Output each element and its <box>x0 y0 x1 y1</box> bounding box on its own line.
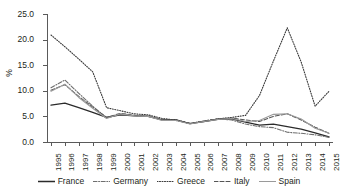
x-axis-tick-label: 2013 <box>305 153 313 171</box>
x-axis-tick-label: 1998 <box>96 153 104 171</box>
x-axis-tick-label: 2003 <box>166 153 174 171</box>
x-axis-tick-label: 2009 <box>249 153 257 171</box>
solid-light-line-swatch <box>259 178 276 185</box>
x-axis-tick-mark <box>329 142 330 146</box>
x-axis-tick-mark <box>204 142 205 146</box>
x-axis-tick-label: 2010 <box>263 153 271 171</box>
legend-item-germany[interactable]: Germany <box>93 177 148 186</box>
y-axis-tick-mark <box>43 65 47 66</box>
legend-label: Germany <box>113 177 148 186</box>
x-axis-tick-mark <box>301 142 302 146</box>
x-axis-tick-mark <box>260 142 261 146</box>
legend-label: Greece <box>177 177 205 186</box>
x-axis-tick-mark <box>162 142 163 146</box>
x-axis-tick-label: 2002 <box>152 153 160 171</box>
x-axis-tick-mark <box>79 142 80 146</box>
series-line-spain <box>51 84 329 133</box>
solid-line-swatch <box>38 178 55 185</box>
legend-item-italy[interactable]: Italy <box>214 177 250 186</box>
x-axis-tick-mark <box>218 142 219 146</box>
legend-label: France <box>58 177 84 186</box>
legend-label: Spain <box>279 177 301 186</box>
x-axis-tick-mark <box>246 142 247 146</box>
x-axis-tick-label: 1995 <box>55 153 63 171</box>
x-axis-tick-label: 1999 <box>110 153 118 171</box>
y-axis-tick-mark <box>43 40 47 41</box>
x-axis-tick-label: 2012 <box>291 153 299 171</box>
dashed-line-swatch <box>214 178 231 185</box>
dotted-line-swatch <box>157 178 174 185</box>
x-axis-tick-mark <box>93 142 94 146</box>
x-axis-tick-label: 2004 <box>180 153 188 171</box>
y-axis-tick-mark <box>43 14 47 15</box>
dash-dot-line-swatch <box>93 178 110 185</box>
x-axis-tick-mark <box>273 142 274 146</box>
series-lines <box>47 14 333 142</box>
legend-item-greece[interactable]: Greece <box>157 177 205 186</box>
x-axis-tick-label: 2014 <box>319 153 327 171</box>
x-axis-tick-label: 2015 <box>333 153 341 171</box>
y-axis-tick-label: 5.0 <box>22 112 34 121</box>
x-axis-tick-mark <box>148 142 149 146</box>
x-axis-tick-marks <box>0 142 338 146</box>
x-axis-tick-mark <box>51 142 52 146</box>
x-axis-tick-mark <box>315 142 316 146</box>
x-axis-tick-mark <box>232 142 233 146</box>
y-axis-tick-label: 20.0 <box>17 35 34 44</box>
plot-area <box>47 14 333 142</box>
chart-legend: FranceGermanyGreeceItalySpain <box>0 174 338 188</box>
y-axis-tick-mark <box>43 91 47 92</box>
x-axis-tick-mark <box>121 142 122 146</box>
y-axis-tick-label: 15.0 <box>17 61 34 70</box>
x-axis-tick-label: 2001 <box>138 153 146 171</box>
x-axis-tick-label: 2011 <box>277 154 285 171</box>
x-axis-tick-mark <box>190 142 191 146</box>
y-axis-tick-label: 25.0 <box>17 10 34 19</box>
y-axis-tick-mark <box>43 142 47 143</box>
y-axis-tick-mark <box>43 116 47 117</box>
x-axis-tick-mark <box>107 142 108 146</box>
legend-item-spain[interactable]: Spain <box>259 177 301 186</box>
x-axis-tick-label: 2007 <box>221 153 229 171</box>
legend-item-france[interactable]: France <box>38 177 84 186</box>
y-axis-tick-label: 10.0 <box>17 86 34 95</box>
x-axis-tick-mark <box>176 142 177 146</box>
x-axis-tick-label: 1997 <box>82 153 90 171</box>
legend-label: Italy <box>234 177 250 186</box>
series-line-greece <box>51 28 329 124</box>
x-axis-tick-label: 1996 <box>68 153 76 171</box>
x-axis-tick-mark <box>287 142 288 146</box>
x-axis-tick-mark <box>65 142 66 146</box>
x-axis-tick-label: 2000 <box>124 153 132 171</box>
x-axis-tick-label: 2006 <box>207 153 215 171</box>
x-axis-tick-label: 2008 <box>235 153 243 171</box>
x-axis-tick-label: 2005 <box>194 153 202 171</box>
x-axis-tick-mark <box>134 142 135 146</box>
